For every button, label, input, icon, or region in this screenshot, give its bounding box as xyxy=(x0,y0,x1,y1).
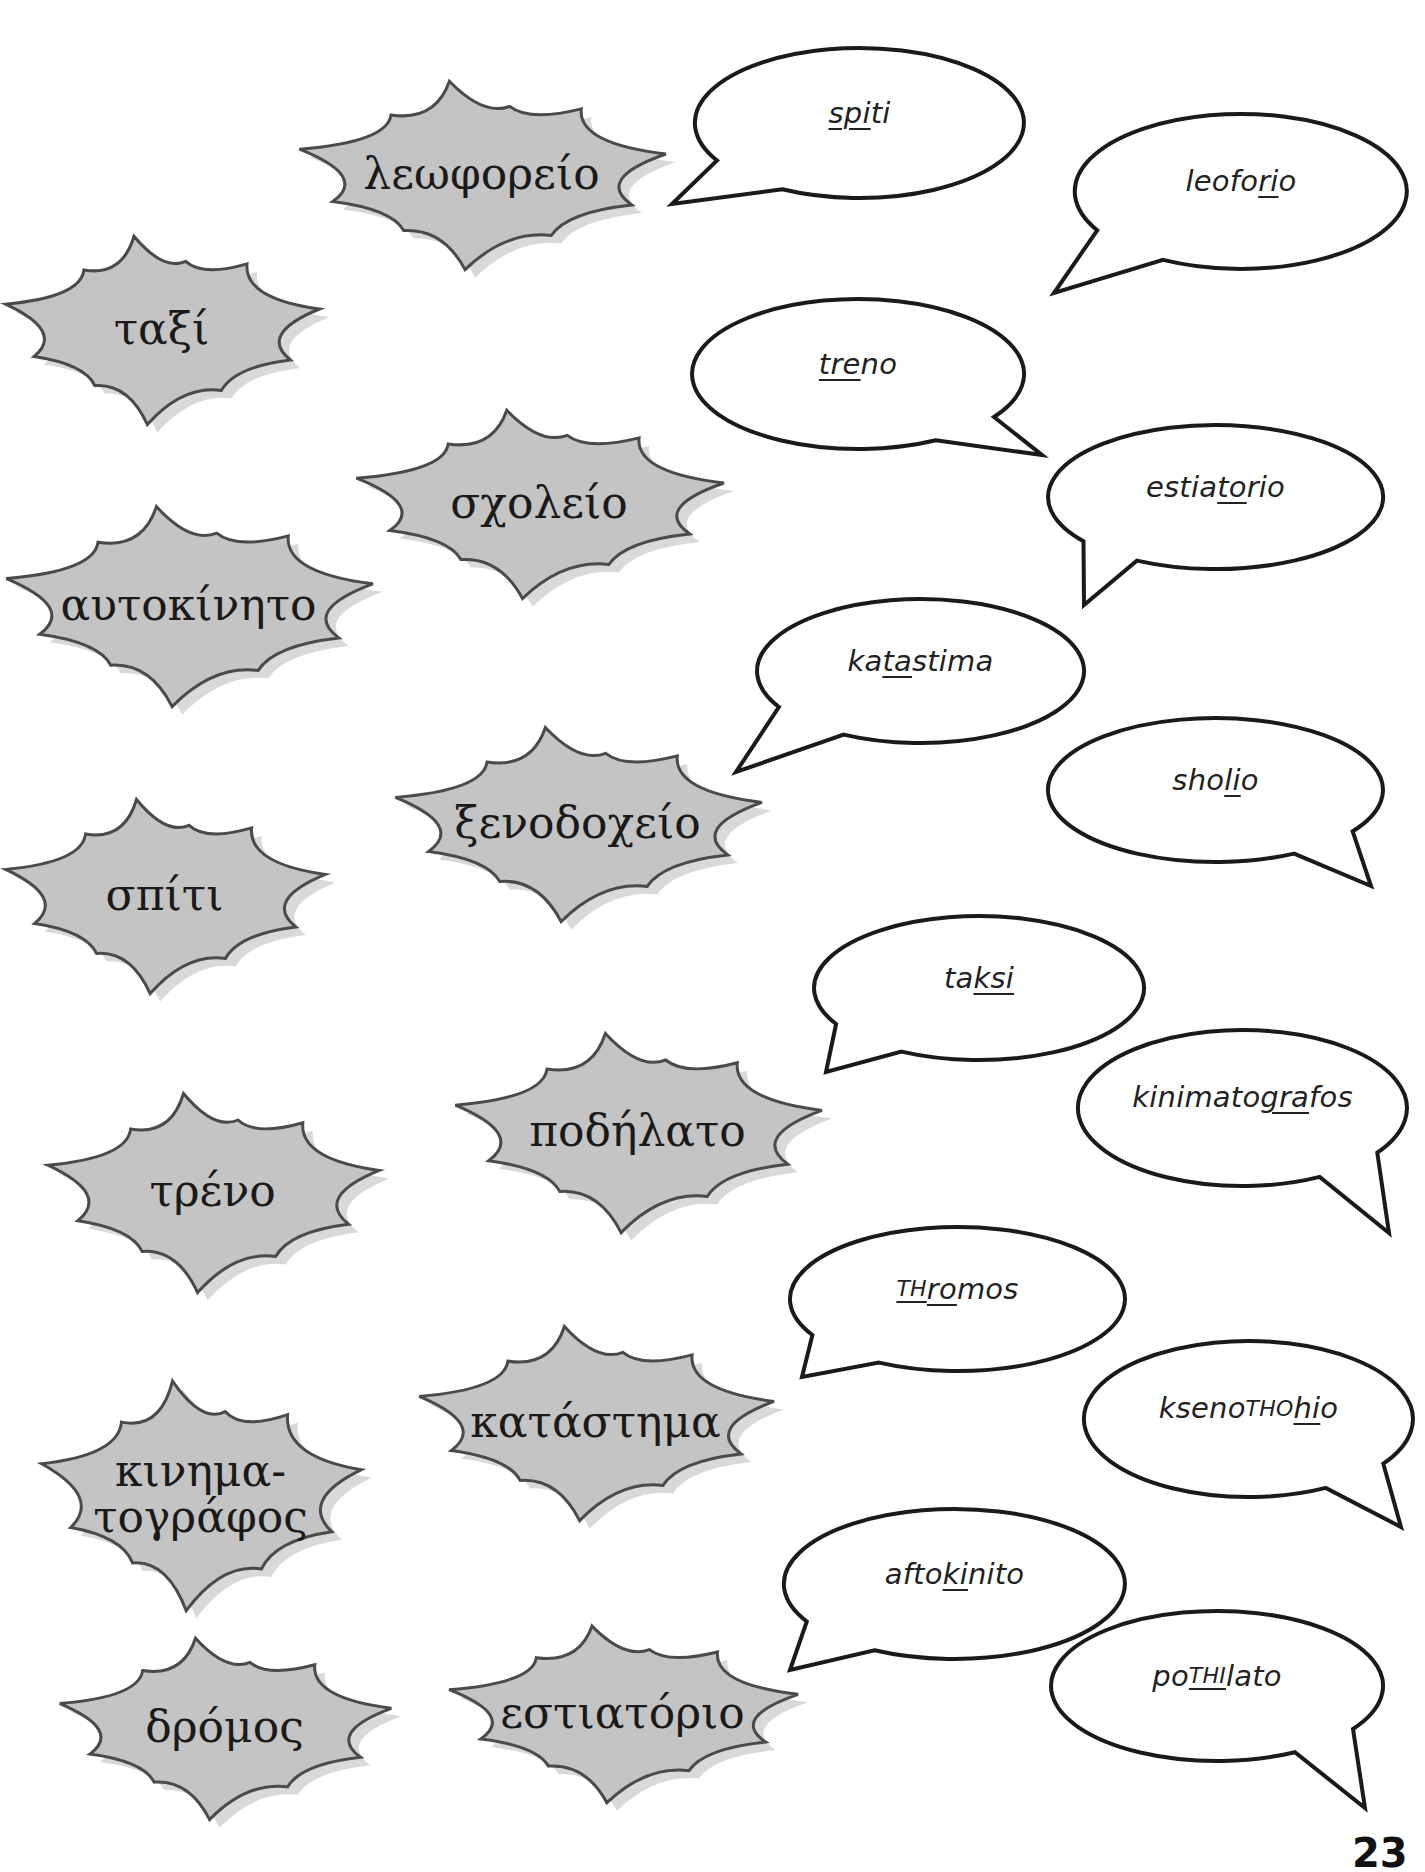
page-number: 23 xyxy=(1352,1830,1408,1872)
syllable: po xyxy=(1152,1659,1189,1693)
transliteration-label: poTHIlato xyxy=(1051,1611,1383,1740)
stressed-syllable: THI xyxy=(1189,1663,1226,1688)
syllable: lato xyxy=(1226,1659,1282,1693)
speech-bubble-shape-icon xyxy=(0,0,1425,1872)
worksheet-page: λεωφορείοταξίσχολείοαυτοκίνητοξενοδοχείο… xyxy=(0,0,1425,1872)
